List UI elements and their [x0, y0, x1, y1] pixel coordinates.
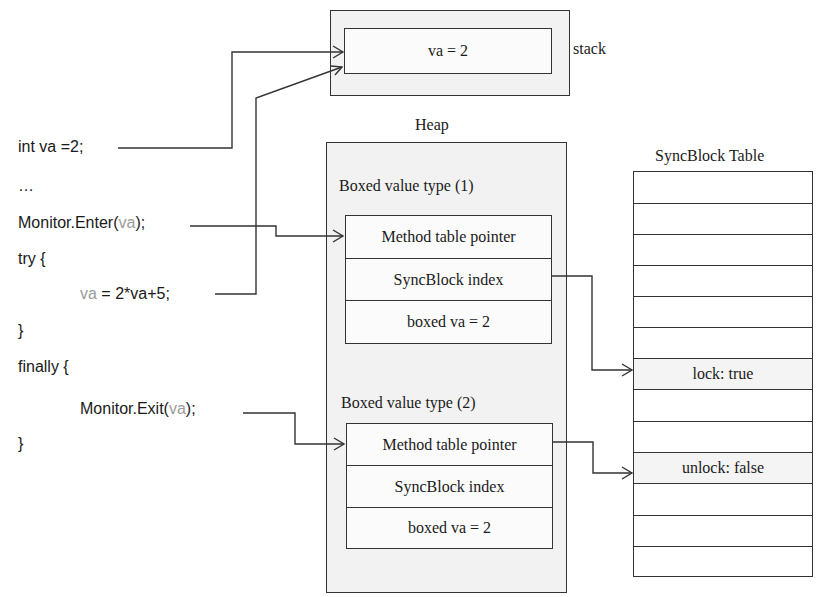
code-line-close-try: } [18, 321, 23, 341]
boxed-value-type-2-title: Boxed value type (2) [341, 394, 476, 412]
syncblock-row [634, 296, 812, 327]
heap-label: Heap [415, 116, 449, 134]
syncblock-row [634, 234, 812, 265]
syncblock-row [634, 265, 812, 296]
syncblock-table: lock: true unlock: false [633, 171, 813, 577]
syncblock-index-2: SyncBlock index [347, 465, 552, 507]
syncblock-row [634, 327, 812, 358]
code-line-monitor-exit: Monitor.Exit(va); [80, 399, 196, 419]
syncblock-index-1: SyncBlock index [346, 258, 551, 300]
arrow-decl-to-stack [118, 52, 343, 148]
syncblock-row [634, 515, 812, 546]
method-table-pointer-2: Method table pointer [347, 424, 552, 465]
arrow-enter-to-boxed1 [190, 226, 343, 236]
code-line-monitor-enter: Monitor.Enter(va); [18, 213, 145, 233]
stack-slot-va: va = 2 [344, 28, 552, 74]
code-line-decl: int va =2; [18, 137, 83, 157]
syncblock-row [634, 546, 812, 576]
syncblock-row [634, 421, 812, 452]
code-line-ellipsis: … [18, 176, 34, 196]
arrowhead-lock [622, 364, 632, 376]
boxed-va-1: boxed va = 2 [346, 300, 551, 343]
arrowhead-unlock [622, 467, 632, 479]
syncblock-row-lock-true: lock: true [634, 358, 812, 389]
code-line-try: try { [18, 249, 46, 269]
code-line-assign: va = 2*va+5; [80, 284, 170, 304]
syncblock-row-unlock-false: unlock: false [634, 452, 812, 483]
boxed-value-type-1: Method table pointer SyncBlock index box… [345, 215, 552, 344]
syncblock-row [634, 483, 812, 515]
code-line-close-finally: } [18, 434, 23, 454]
boxed-value-type-2: Method table pointer SyncBlock index box… [346, 423, 553, 549]
stack-slot-value: va = 2 [345, 29, 551, 73]
stack-label: stack [573, 40, 606, 58]
syncblock-row [634, 172, 812, 203]
syncblock-row [634, 389, 812, 421]
method-table-pointer-1: Method table pointer [346, 216, 551, 258]
heap-region: Boxed value type (1) Method table pointe… [326, 142, 567, 593]
syncblock-row [634, 203, 812, 234]
boxed-value-type-1-title: Boxed value type (1) [339, 177, 474, 195]
syncblock-table-title: SyncBlock Table [655, 147, 764, 165]
boxed-va-2: boxed va = 2 [347, 507, 552, 548]
stack-region: va = 2 [330, 10, 570, 96]
arrow-assign-to-stack [215, 67, 342, 294]
code-line-finally: finally { [18, 357, 69, 377]
